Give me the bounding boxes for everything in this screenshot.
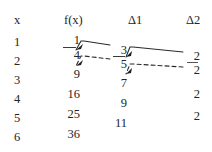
link-arrow-fx-to-delta1-5: [76, 56, 110, 66]
difference-link-overlay: [0, 0, 212, 152]
cell-fx-1: 1: [64, 34, 80, 47]
difference-table-figure: x f(x) Δ1 Δ2 1 2 3 4 5 6 1 4 9 16 25 36 …: [0, 0, 212, 152]
column-header-fx: f(x): [64, 14, 83, 27]
column-header-delta2: Δ2: [186, 14, 200, 27]
cell-x-5: 5: [14, 112, 20, 125]
cell-fx-25: 25: [59, 108, 80, 121]
link-arrow-fx-to-delta1-3: [76, 41, 110, 50]
cell-x-6: 6: [14, 131, 20, 144]
link-arrow-delta1-to-delta2-a: [126, 47, 183, 57]
cell-fx-36: 36: [59, 128, 80, 141]
column-header-delta1: Δ1: [128, 14, 142, 27]
cell-fx-9: 9: [64, 68, 80, 81]
cell-delta2-d: 2: [186, 110, 200, 123]
cell-delta1-11: 11: [108, 117, 127, 130]
cell-delta1-7: 7: [113, 77, 127, 90]
cell-delta2-a: 2: [186, 50, 200, 63]
cell-delta1-5: 5: [113, 58, 127, 71]
cell-x-4: 4: [14, 93, 20, 106]
cell-delta2-c: 2: [186, 88, 200, 101]
cell-delta2-b: 2: [186, 64, 200, 77]
cell-x-2: 2: [14, 55, 20, 68]
cell-delta1-3: 3: [113, 44, 127, 57]
cell-delta1-9: 9: [113, 97, 127, 110]
column-header-x: x: [14, 14, 20, 27]
cell-x-3: 3: [14, 74, 20, 87]
link-arrow-delta1-to-delta2-b: [126, 64, 183, 74]
cell-x-1: 1: [14, 36, 20, 49]
cell-fx-4: 4: [64, 49, 80, 62]
cell-fx-16: 16: [59, 88, 80, 101]
